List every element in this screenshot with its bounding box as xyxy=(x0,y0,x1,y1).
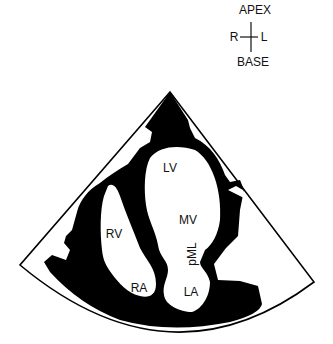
label-la: LA xyxy=(184,285,199,299)
orientation-base: BASE xyxy=(237,55,269,69)
label-pml: pML xyxy=(185,242,199,266)
label-lv: LV xyxy=(163,161,177,175)
orientation-marker: APEX R L BASE xyxy=(230,3,271,69)
label-ra: RA xyxy=(131,281,148,295)
orientation-apex: APEX xyxy=(239,3,271,17)
echo-diagram: APEX R L BASE LV MV RV pML RA LA xyxy=(0,0,333,344)
label-rv: RV xyxy=(106,227,122,241)
orientation-left: L xyxy=(261,30,268,44)
orientation-right: R xyxy=(230,30,239,44)
label-mv: MV xyxy=(179,213,197,227)
